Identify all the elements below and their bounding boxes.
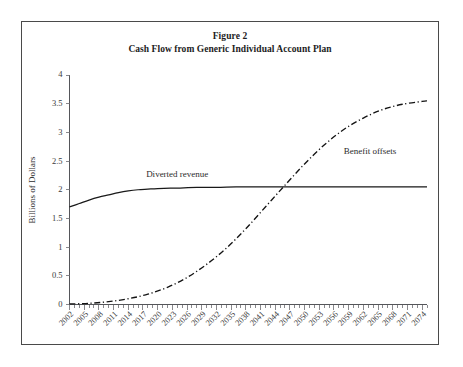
- x-tick-label: 2053: [307, 310, 325, 328]
- annotation-benefit-offsets: Benefit offsets: [344, 146, 397, 156]
- y-tick-label: 4: [58, 69, 63, 79]
- x-minor-tick-group: [70, 305, 428, 310]
- x-tick-label: 2041: [248, 310, 266, 328]
- y-tick-label: 3: [58, 127, 62, 137]
- y-axis-title: Billions of Dollars: [27, 156, 37, 223]
- x-tick-label: 2071: [395, 310, 413, 328]
- x-tick-label: 2032: [204, 310, 222, 328]
- x-tick-label: 2065: [366, 310, 384, 328]
- x-tick-label: 2005: [72, 310, 90, 328]
- x-tick-label: 2038: [234, 310, 252, 328]
- x-tick-label: 2029: [189, 310, 207, 328]
- y-tick-label: 3.5: [52, 98, 63, 108]
- x-tick-label: 2014: [116, 309, 135, 328]
- annotation-diverted-revenue: Diverted revenue: [146, 169, 208, 179]
- y-tick-label: 1.5: [52, 213, 63, 223]
- y-tick-label-group: 00.511.522.533.54: [52, 69, 63, 309]
- x-tick-label: 2020: [145, 310, 163, 328]
- y-tick-label: 2.5: [52, 156, 63, 166]
- series-line-benefit-offsets: [70, 101, 428, 304]
- x-tick-label: 2047: [278, 310, 296, 328]
- x-tick-label: 2017: [131, 310, 149, 328]
- x-tick-label: 2050: [292, 310, 310, 328]
- x-tick-label: 2056: [322, 310, 340, 328]
- x-tick-label: 2023: [160, 310, 178, 328]
- x-tick-label: 2011: [101, 310, 119, 328]
- x-tick-label: 2026: [175, 310, 193, 328]
- x-tick-label: 2035: [219, 310, 237, 328]
- y-tick-label: 1: [58, 242, 62, 252]
- x-tick-label: 2008: [87, 310, 105, 328]
- x-tick-label: 2068: [380, 310, 398, 328]
- y-tick-label: 0.5: [52, 270, 63, 280]
- x-tick-label: 2044: [263, 309, 282, 328]
- y-tick-label: 0: [58, 299, 62, 309]
- x-tick-label-group: 2002200520082011201420172020202320262029…: [57, 309, 428, 328]
- y-tick-label: 2: [58, 184, 62, 194]
- x-tick-label: 2002: [57, 310, 75, 328]
- chart-plot: 00.511.522.533.54 2002200520082011201420…: [22, 22, 440, 346]
- x-tick-label: 2059: [336, 310, 354, 328]
- x-tick-label: 2074: [410, 309, 429, 328]
- x-tick-label: 2062: [351, 310, 369, 328]
- series-line-diverted-revenue: [70, 187, 428, 207]
- figure-frame: Figure 2 Cash Flow from Generic Individu…: [21, 21, 439, 345]
- y-tick-group: [66, 75, 70, 305]
